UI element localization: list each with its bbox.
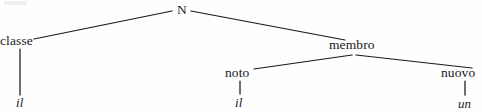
edge-membro-noto bbox=[254, 55, 352, 69]
tree-node-root-n: N bbox=[177, 3, 187, 17]
tree-node-membro: membro bbox=[329, 38, 375, 52]
edge-n-membro bbox=[191, 11, 345, 40]
tree-leaf-il-classe: il bbox=[16, 96, 23, 109]
tree-leaf-il-noto: il bbox=[235, 96, 242, 109]
tree-node-noto: noto bbox=[225, 66, 249, 80]
syntax-tree-figure: N classe membro noto nuovo il il un bbox=[0, 0, 482, 112]
tree-node-nuovo: nuovo bbox=[441, 66, 475, 80]
tree-leaf-un-nuovo: un bbox=[458, 97, 471, 110]
edge-n-classe bbox=[34, 11, 172, 39]
tree-node-classe: classe bbox=[0, 34, 33, 48]
